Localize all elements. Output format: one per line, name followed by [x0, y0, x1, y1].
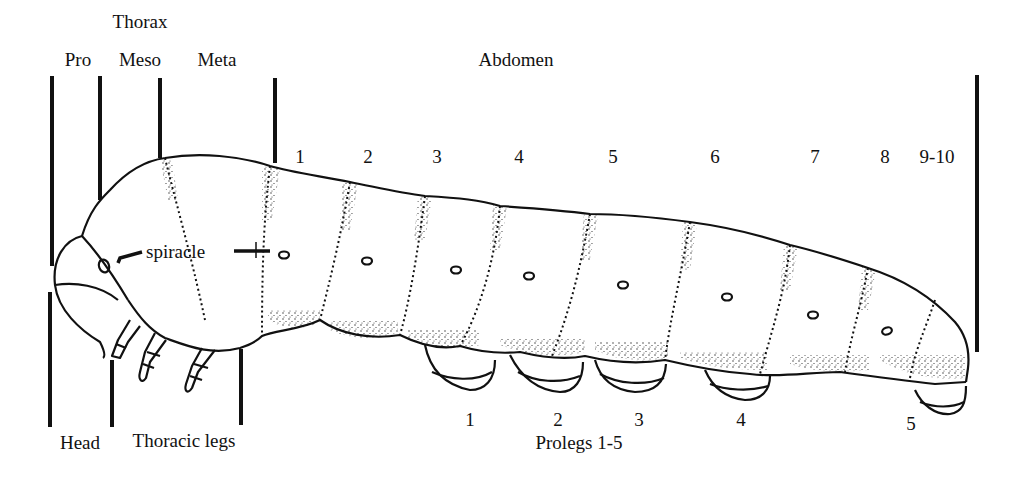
label-abdominal-segment-2: 2 [363, 147, 373, 166]
thoracic-leg-1 [112, 320, 140, 358]
thoracic-leg-2 [139, 333, 166, 381]
spiracle-a5 [618, 282, 628, 289]
caterpillar-body [55, 155, 969, 414]
label-head: Head [60, 433, 100, 452]
label-proleg-1: 1 [465, 410, 475, 429]
label-prolegs: Prolegs 1-5 [535, 433, 622, 452]
spiracle-prothoracic [97, 258, 111, 274]
segment-divider-bars-lower [50, 292, 241, 427]
label-proleg-2: 2 [553, 410, 563, 429]
label-abdominal-segment-3: 3 [432, 147, 442, 166]
label-abdomen: Abdomen [479, 50, 554, 69]
segment-divider-bars-upper [52, 75, 977, 352]
label-abdominal-segment-1: 1 [295, 147, 305, 166]
label-thorax: Thorax [113, 12, 168, 31]
spiracle-a4 [524, 273, 534, 280]
label-proleg-5: 5 [906, 414, 916, 433]
label-abdominal-segment-5: 5 [608, 147, 618, 166]
thoracic-leg-3 [185, 348, 215, 391]
spiracle-a7 [808, 312, 818, 319]
label-proleg-3: 3 [634, 410, 644, 429]
proleg-5 [915, 386, 966, 414]
spiracle-a2 [362, 258, 372, 265]
label-abdominal-segment-6: 6 [710, 147, 720, 166]
label-proleg-4: 4 [736, 410, 746, 429]
spiracle-a8 [881, 326, 893, 336]
label-abdominal-segment-8: 8 [880, 147, 890, 166]
label-pro: Pro [65, 50, 91, 69]
spiracle-a3 [451, 267, 461, 274]
label-abdominal-segment-4: 4 [514, 147, 524, 166]
label-spiracle: spiracle [146, 242, 205, 261]
caterpillar-anatomy-diagram: Thorax Pro Meso Meta Abdomen 1 2 3 4 5 6… [0, 0, 1020, 484]
thoracic-legs [112, 320, 215, 391]
spiracle-a6 [722, 294, 732, 301]
pro-segment-outline [82, 236, 128, 300]
spiracle-a1 [279, 252, 289, 259]
label-abdominal-segment-9-10: 9-10 [920, 147, 955, 166]
label-abdominal-segment-7: 7 [810, 147, 820, 166]
label-thoracic-legs: Thoracic legs [133, 431, 236, 450]
label-meso: Meso [119, 50, 161, 69]
label-meta: Meta [197, 50, 236, 69]
